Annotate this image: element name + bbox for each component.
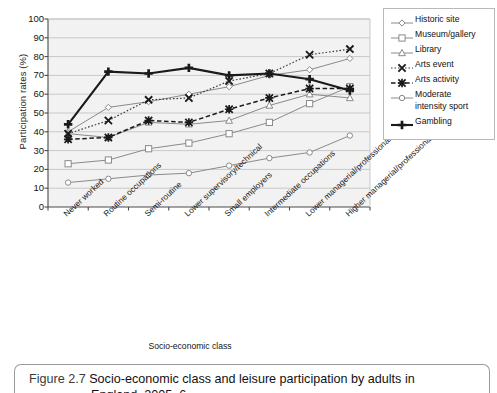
asterisk-marker-icon	[389, 77, 415, 89]
x-axis-tick-labels: Never workedRoutine occupationsSemi-rout…	[0, 208, 380, 338]
square-open-marker-icon	[105, 157, 111, 163]
legend-symbol	[389, 45, 415, 57]
circle-open-marker-icon	[307, 150, 312, 155]
legend-label: Historic site	[415, 14, 459, 26]
plus-bold-marker-icon	[389, 119, 415, 131]
legend-item-museum-gallery: Museum/gallery	[389, 29, 490, 43]
legend-label: Arts event	[415, 59, 454, 71]
legend-label: Gambling	[415, 116, 452, 128]
square-open-marker-icon	[399, 35, 405, 41]
square-open-marker-icon	[186, 140, 192, 146]
legend-item-library: Library	[389, 44, 490, 58]
circle-open-marker-icon	[389, 92, 415, 104]
legend-item-arts-event: Arts event	[389, 59, 490, 73]
figure-caption-box: Figure 2.7 Socio-economic class and leis…	[14, 364, 490, 393]
square-open-marker-icon	[307, 101, 313, 107]
chart-container: Participation rates (%) 0102030405060708…	[0, 0, 380, 215]
triangle-open-marker-icon	[389, 47, 415, 59]
legend-label: Arts activity	[415, 74, 459, 86]
legend-label: Moderate intensity sport	[415, 89, 468, 112]
asterisk-marker-icon	[185, 118, 193, 126]
asterisk-marker-icon	[305, 84, 313, 92]
asterisk-marker-icon	[398, 79, 406, 87]
circle-open-marker-icon	[347, 133, 352, 138]
square-open-marker-icon	[226, 131, 232, 137]
asterisk-marker-icon	[265, 94, 273, 102]
figure-caption-label: Figure 2.7	[29, 372, 86, 386]
legend-symbol	[389, 117, 415, 129]
legend-item-arts-activity: Arts activity	[389, 74, 490, 88]
diamond-open-marker-icon	[389, 17, 415, 29]
square-open-marker-icon	[266, 119, 272, 125]
asterisk-marker-icon	[225, 105, 233, 113]
chart-legend: Historic siteMuseum/galleryLibraryArts e…	[383, 8, 495, 140]
asterisk-marker-icon	[104, 133, 112, 141]
legend-symbol	[389, 30, 415, 42]
circle-open-marker-icon	[106, 176, 111, 181]
plus-bold-marker-icon	[398, 121, 406, 129]
plot-svg	[0, 0, 380, 215]
legend-item-gambling: Gambling	[389, 116, 490, 130]
figure-caption-line1: Socio-economic class and leisure partici…	[89, 372, 415, 386]
circle-open-marker-icon	[186, 170, 191, 175]
legend-symbol	[389, 15, 415, 27]
x-axis-title: Socio-economic class	[0, 341, 380, 351]
legend-symbol	[389, 90, 415, 102]
circle-open-marker-icon	[267, 155, 272, 160]
figure-caption: Figure 2.7 Socio-economic class and leis…	[15, 365, 489, 387]
square-open-marker-icon	[65, 161, 71, 167]
diamond-open-marker-icon	[399, 20, 405, 26]
figure-caption-line2: England, 2005–6	[15, 387, 489, 393]
square-open-marker-icon	[146, 146, 152, 152]
legend-symbol	[389, 60, 415, 72]
asterisk-marker-icon	[64, 135, 72, 143]
square-open-marker-icon	[389, 32, 415, 44]
circle-open-marker-icon	[65, 180, 70, 185]
legend-symbol	[389, 75, 415, 87]
legend-label: Library	[415, 44, 441, 56]
x-cross-marker-icon	[389, 62, 415, 74]
asterisk-marker-icon	[144, 116, 152, 124]
legend-label: Museum/gallery	[415, 29, 476, 41]
legend-item-historic-site: Historic site	[389, 14, 490, 28]
figure-page: Participation rates (%) 0102030405060708…	[0, 0, 497, 393]
legend-item-moderate-intensity-sport: Moderate intensity sport	[389, 89, 490, 115]
circle-open-marker-icon	[399, 95, 404, 100]
